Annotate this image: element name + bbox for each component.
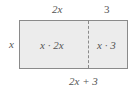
cell-right-product: x · 3: [97, 40, 116, 51]
dashed-divider: [88, 21, 89, 68]
top-label-right: 3: [104, 4, 110, 15]
left-label: x: [9, 39, 14, 50]
bottom-label: 2x + 3: [69, 76, 98, 87]
top-label-left: 2x: [52, 4, 62, 15]
area-rectangle: x · 2x x · 3: [19, 20, 128, 69]
cell-left-product: x · 2x: [40, 40, 64, 51]
